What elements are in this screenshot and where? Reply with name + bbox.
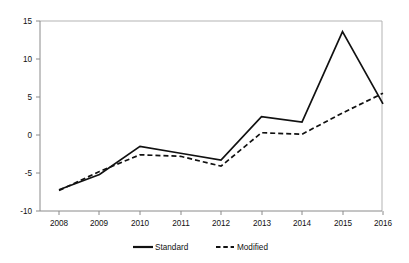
chart-container: 15 10 5 0 -5 -10 2008 2009 2010 2011 201… — [0, 0, 409, 263]
y-axis-labels: 15 10 5 0 -5 -10 — [20, 17, 32, 216]
y-label-10: 10 — [23, 55, 33, 64]
x-label-2011: 2011 — [172, 219, 190, 228]
y-label-15: 15 — [23, 17, 33, 26]
chart-legend: Standard Modified — [133, 243, 268, 252]
x-label-2008: 2008 — [50, 219, 69, 228]
y-label-0: 0 — [27, 131, 32, 140]
x-tick-marks — [59, 211, 383, 215]
x-axis-labels: 2008 2009 2010 2011 2012 2013 2014 2015 … — [50, 219, 393, 228]
line-chart: 15 10 5 0 -5 -10 2008 2009 2010 2011 201… — [0, 0, 409, 263]
x-label-2015: 2015 — [334, 219, 353, 228]
x-label-2016: 2016 — [374, 219, 393, 228]
x-label-2010: 2010 — [131, 219, 150, 228]
x-label-2009: 2009 — [90, 219, 109, 228]
plot-frame — [40, 21, 382, 211]
x-label-2013: 2013 — [253, 219, 272, 228]
legend-label-modified: Modified — [237, 243, 268, 252]
y-label-minus10: -10 — [20, 207, 32, 216]
series-line-modified — [59, 93, 383, 190]
x-label-2012: 2012 — [212, 219, 231, 228]
y-tick-marks — [36, 21, 40, 211]
y-label-minus5: -5 — [25, 169, 33, 178]
y-label-5: 5 — [27, 93, 32, 102]
x-label-2014: 2014 — [293, 219, 312, 228]
legend-label-standard: Standard — [155, 243, 189, 252]
